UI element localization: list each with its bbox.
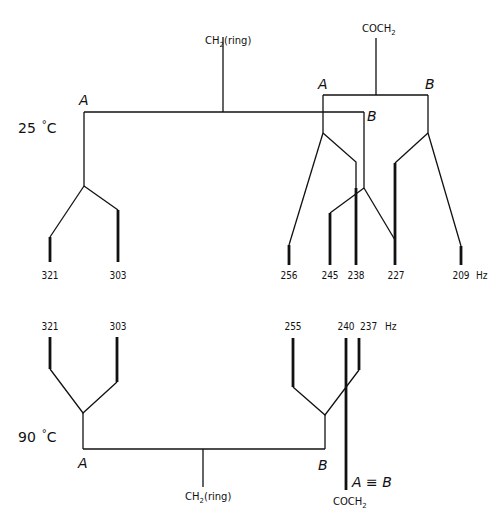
ring-a-fork-right-top [84,186,118,210]
freq-label-245-top: 245 [321,270,338,281]
freq-label-303-bottom: 303 [109,321,126,332]
coch2-b-fork-right-top [428,133,461,246]
freq-label-227-top: 227 [387,270,404,281]
coch2-label-top: COCH2 [362,23,396,37]
freq-label-321-bottom: 321 [41,321,58,332]
ring-b-fork-left-top [330,188,364,213]
site-label-coch2-ab-bottom: A ≡ B [351,474,392,490]
freq-label-256-top: 256 [280,270,297,281]
coch2-b-fork-left-top [395,133,428,163]
nmr-splitting-diagram: 25°C CH2(ring) A B COCH2 A B [0,0,501,510]
ring-b-fork-bottom [293,370,359,415]
freq-label-240-bottom: 240 [337,321,354,332]
freq-label-237-bottom: 237 [360,321,377,332]
freq-label-321-top: 321 [41,270,58,281]
site-label-coch2-a-top: A [317,76,328,92]
site-label-ring-b-bottom: B [318,457,328,473]
site-label-ring-a-top: A [78,92,89,108]
site-label-coch2-b-top: B [425,76,435,92]
freq-label-255-bottom: 255 [284,321,301,332]
top-diagram-25c: 25°C CH2(ring) A B COCH2 A B [18,23,488,281]
ring-a-fork-left-top [50,186,84,237]
temperature-label-bottom: 90°C [18,428,57,445]
hz-unit-label-bottom: Hz [385,321,397,332]
site-label-ring-a-bottom: A [77,455,88,471]
site-label-ring-b-top: B [367,108,377,124]
ch2-ring-label-top: CH2(ring) [205,35,251,49]
ch2-ring-label-bottom: CH2(ring) [185,491,231,505]
ring-b-fork-right-top [364,188,395,240]
freq-label-238-top: 238 [347,270,364,281]
temperature-label-top: 25°C [18,119,57,136]
freq-label-303-top: 303 [109,270,126,281]
ring-a-fork-bottom [50,369,117,413]
freq-label-209-top: 209 [452,270,469,281]
bottom-diagram-90c: 90°C 321 303 255 240 237 Hz A B CH2(ring… [18,321,397,510]
coch2-a-fork-left-top [289,133,323,245]
hz-unit-label-top: Hz [476,270,488,281]
coch2-a-fork-right-top [323,133,356,188]
coch2-label-bottom: COCH2 [333,496,367,510]
